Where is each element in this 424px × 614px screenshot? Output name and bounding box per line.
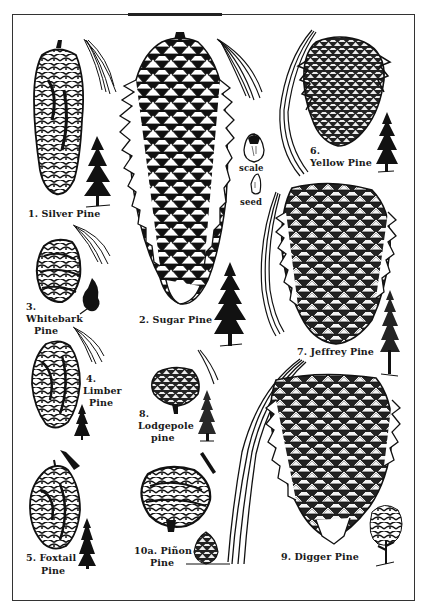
label-limber-pine-word: Pine — [89, 397, 113, 408]
label-whitebark-pine-word: Pine — [34, 325, 58, 336]
silver-pine-tree-icon — [84, 136, 111, 207]
sugar-pine-cone-icon — [120, 32, 234, 304]
lodgepole-pine-cone-icon — [152, 367, 199, 414]
label-whitebark-number: 3. — [26, 301, 36, 312]
whitebark-pine-tree-icon — [80, 278, 100, 314]
label-yellow-name: Yellow Pine — [310, 157, 372, 168]
label-lodgepole-pine-word: pine — [151, 432, 175, 443]
label-limber-name: Limber — [83, 385, 122, 396]
digger-pine-tree-icon — [370, 505, 402, 566]
pinon-pine-tree-icon — [186, 532, 230, 564]
label-seed: seed — [240, 197, 262, 208]
pinon-pine-cone-icon — [141, 467, 210, 532]
whitebark-pine-cone-icon — [37, 240, 81, 302]
silver-pine-needles-icon — [84, 39, 116, 94]
seed-illustration-icon — [251, 174, 261, 194]
label-pinon-line1: 10a. Piñon — [134, 545, 192, 556]
lodgepole-pine-needles-icon — [198, 350, 218, 384]
label-jeffrey-pine: 7. Jeffrey Pine — [297, 346, 374, 357]
label-lodgepole-name: Lodgepole — [138, 420, 194, 431]
label-pinon-line2: Pine — [150, 557, 174, 568]
jeffrey-pine-tree-icon — [380, 290, 400, 376]
label-limber-number: 4. — [86, 373, 96, 384]
yellow-pine-cone-icon — [298, 37, 390, 146]
silver-pine-cone-icon — [34, 40, 83, 194]
limber-pine-needles-icon — [73, 327, 104, 364]
label-scale: scale — [239, 163, 264, 174]
label-sugar-pine: 2. Sugar Pine — [139, 314, 212, 325]
yellow-pine-tree-icon — [376, 112, 398, 172]
sugar-pine-tree-icon — [214, 262, 246, 346]
label-lodgepole-number: 8. — [139, 408, 149, 419]
scale-illustration-icon — [244, 134, 264, 162]
label-silver-pine: 1. Silver Pine — [28, 208, 100, 219]
jeffrey-pine-cone-icon — [276, 183, 396, 344]
label-foxtail-line1: 5. Foxtail — [26, 552, 76, 563]
limber-pine-tree-icon — [74, 404, 90, 440]
lodgepole-pine-tree-icon — [198, 390, 216, 441]
foxtail-pine-tree-icon — [78, 518, 96, 569]
label-foxtail-line2: Pine — [41, 565, 65, 576]
label-digger-pine: 9. Digger Pine — [281, 551, 359, 562]
label-yellow-number: 6. — [310, 145, 320, 156]
label-whitebark-name: Whitebark — [26, 313, 83, 324]
pinon-pine-needles-icon — [200, 452, 216, 474]
foxtail-pine-cone-icon — [30, 460, 80, 549]
limber-pine-cone-icon — [32, 341, 80, 427]
illustration-canvas — [0, 0, 424, 614]
